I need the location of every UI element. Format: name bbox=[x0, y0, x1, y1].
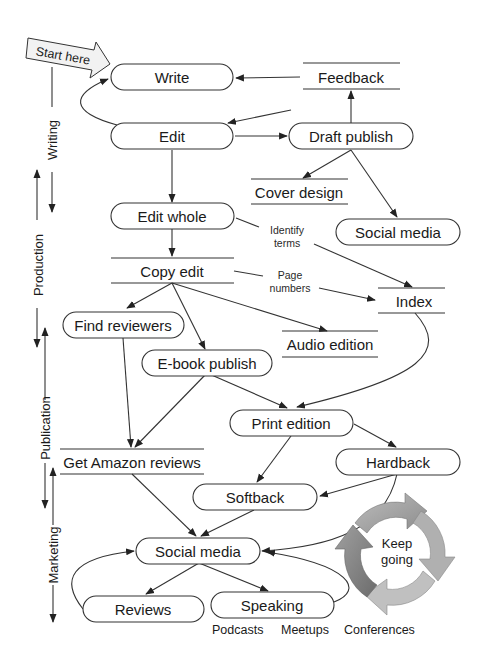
speaking-type-conferences: Conferences bbox=[344, 623, 415, 637]
node-feedback: Feedback bbox=[303, 63, 400, 89]
node-write-label: Write bbox=[155, 69, 190, 86]
edge-softback-socialmedia bbox=[201, 510, 254, 536]
edge-feedback-write bbox=[236, 77, 300, 78]
node-speaking-label: Speaking bbox=[241, 597, 304, 614]
keep-going-line2: going bbox=[381, 552, 413, 567]
speaking-type-podcasts: Podcasts bbox=[212, 623, 263, 637]
node-hardback-label: Hardback bbox=[366, 454, 431, 471]
node-get-amazon-reviews-label: Get Amazon reviews bbox=[63, 454, 201, 471]
node-softback: Softback bbox=[193, 484, 317, 510]
node-social-media-top: Social media bbox=[336, 219, 460, 245]
node-speaking: Speaking bbox=[211, 592, 334, 618]
edge-hardback-softback bbox=[320, 474, 397, 496]
node-social-media-label: Social media bbox=[155, 543, 242, 560]
edge-copyedit-findreviewers bbox=[127, 283, 172, 308]
node-cover-design-label: Cover design bbox=[255, 184, 343, 201]
edge-label-identify-terms: Identify terms bbox=[270, 224, 305, 249]
node-social-media-top-label: Social media bbox=[355, 224, 442, 241]
page-label-line2: numbers bbox=[270, 282, 311, 294]
edge-print-hardback bbox=[354, 424, 396, 447]
node-audio-edition: Audio edition bbox=[282, 331, 378, 357]
edges bbox=[72, 77, 429, 609]
node-social-media: Social media bbox=[136, 538, 260, 564]
node-ebook-publish-label: E-book publish bbox=[157, 355, 256, 372]
edge-copyedit-page bbox=[234, 271, 263, 276]
identify-label-line1: Identify bbox=[270, 224, 305, 236]
edge-socialmedia-reviews bbox=[146, 563, 199, 594]
node-softback-label: Softback bbox=[226, 489, 285, 506]
node-audio-edition-label: Audio edition bbox=[287, 336, 374, 353]
node-reviews: Reviews bbox=[83, 596, 204, 622]
speaking-types: Podcasts Meetups Conferences bbox=[212, 623, 415, 637]
node-index-label: Index bbox=[396, 293, 433, 310]
node-cover-design: Cover design bbox=[251, 179, 348, 204]
edge-draft-social bbox=[351, 150, 397, 217]
keep-going-line1: Keep bbox=[382, 536, 412, 551]
keep-going-cycle-icon: Keep going bbox=[335, 493, 455, 615]
edge-draft-cover bbox=[303, 150, 351, 178]
node-print-edition: Print edition bbox=[230, 410, 353, 436]
edge-ebook-amazon bbox=[135, 373, 207, 447]
edge-socialmedia-speaking bbox=[199, 563, 268, 591]
edge-print-softback bbox=[257, 436, 291, 482]
node-find-reviewers: Find reviewers bbox=[63, 312, 184, 338]
node-edit-whole: Edit whole bbox=[111, 203, 234, 229]
edge-ebook-print bbox=[207, 373, 287, 408]
node-edit-label: Edit bbox=[159, 128, 186, 145]
phase-label-writing: Writing bbox=[45, 120, 60, 160]
node-get-amazon-reviews: Get Amazon reviews bbox=[60, 449, 204, 474]
node-ebook-publish: E-book publish bbox=[142, 350, 272, 376]
node-edit: Edit bbox=[111, 123, 233, 149]
node-edit-whole-label: Edit whole bbox=[137, 208, 206, 225]
phase-label-marketing: Marketing bbox=[46, 526, 61, 583]
page-label-line1: Page bbox=[278, 269, 303, 281]
edge-edit-write bbox=[81, 79, 117, 125]
node-find-reviewers-label: Find reviewers bbox=[74, 317, 172, 334]
edge-draft-edit bbox=[228, 110, 291, 123]
node-index: Index bbox=[378, 288, 445, 313]
phase-label-production: Production bbox=[31, 234, 46, 296]
edge-label-page-numbers: Page numbers bbox=[270, 269, 311, 294]
speaking-type-meetups: Meetups bbox=[281, 623, 329, 637]
edge-page-index bbox=[319, 288, 375, 300]
node-draft-publish-label: Draft publish bbox=[309, 128, 393, 145]
edge-identify-index bbox=[314, 244, 412, 287]
start-here-arrow: Start here bbox=[26, 38, 110, 78]
edge-amazon-socialmedia bbox=[132, 474, 196, 536]
node-copy-edit-label: Copy edit bbox=[140, 263, 204, 280]
node-reviews-label: Reviews bbox=[115, 601, 172, 618]
publishing-workflow-diagram: Start here Writing Production Publicatio… bbox=[0, 0, 490, 670]
phase-axis: Writing Production Publication Marketing bbox=[31, 67, 61, 622]
edge-index-print bbox=[297, 313, 429, 407]
node-feedback-label: Feedback bbox=[318, 69, 384, 86]
identify-label-line2: terms bbox=[274, 237, 300, 249]
edge-editwhole-identify bbox=[236, 218, 259, 227]
node-copy-edit: Copy edit bbox=[111, 258, 234, 283]
phase-label-publication: Publication bbox=[38, 396, 53, 460]
node-draft-publish: Draft publish bbox=[289, 123, 413, 149]
node-print-edition-label: Print edition bbox=[251, 415, 330, 432]
node-write: Write bbox=[111, 64, 233, 90]
edge-findreviewers-amazon bbox=[123, 338, 131, 447]
node-hardback: Hardback bbox=[336, 449, 460, 475]
